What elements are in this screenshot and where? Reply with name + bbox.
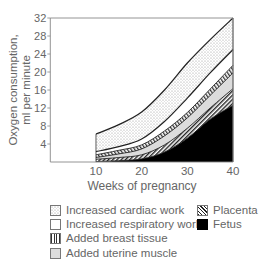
diagonal-hatch-swatch-icon: [197, 205, 208, 216]
x-axis-label: Weeks of pregnancy: [87, 179, 196, 193]
legend-item-placenta: Placenta: [197, 203, 258, 217]
x-tick-label: 10: [90, 165, 103, 177]
y-tick-label: 32: [34, 12, 46, 24]
legend-label: Increased respiratory work: [66, 218, 202, 230]
legend-label: Increased cardiac work: [66, 204, 184, 216]
y-axis-label-line2: ml per minute: [20, 55, 32, 125]
oxygen-consumption-chart: 4812162024283210203040 Weeks of pregnanc…: [0, 0, 265, 200]
legend-label: Added breast tissue: [66, 232, 168, 244]
legend-label: Fetus: [213, 218, 242, 230]
y-tick-label: 12: [34, 102, 46, 114]
y-tick-label: 24: [34, 48, 46, 60]
legend-label: Added uterine muscle: [66, 247, 177, 259]
y-tick-label: 4: [40, 138, 46, 150]
legend-item-respiratory: Increased respiratory work: [50, 217, 202, 231]
x-tick-label: 40: [227, 165, 240, 177]
legend-item-breast: Added breast tissue: [50, 231, 168, 245]
blank-swatch-icon: [50, 219, 61, 230]
x-tick-label: 20: [135, 165, 148, 177]
legend-item-fetus: Fetus: [197, 217, 242, 231]
y-tick-label: 8: [40, 120, 46, 132]
y-tick-label: 28: [34, 30, 46, 42]
stacked-areas: [96, 18, 233, 162]
grey-swatch-icon: [50, 248, 61, 259]
y-tick-label: 20: [34, 66, 46, 78]
solid-black-swatch-icon: [197, 219, 208, 230]
y-tick-label: 16: [34, 84, 46, 96]
y-axis-label-line1: Oxygen consumption,: [7, 34, 19, 145]
dots-swatch-icon: [50, 205, 61, 216]
x-tick-label: 30: [181, 165, 194, 177]
vertical-lines-swatch-icon: [50, 233, 61, 244]
legend-item-cardiac: Increased cardiac work: [50, 203, 184, 217]
legend-item-uterine: Added uterine muscle: [50, 246, 177, 260]
legend-label: Placenta: [213, 204, 258, 216]
